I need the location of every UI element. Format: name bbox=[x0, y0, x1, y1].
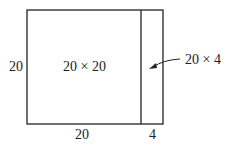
strip-area-label: 20 × 4 bbox=[185, 53, 221, 67]
strip-width-label: 4 bbox=[149, 128, 156, 142]
side-length-label: 20 bbox=[9, 60, 23, 74]
pointer-arrow bbox=[153, 59, 180, 67]
square-area-label: 20 × 20 bbox=[63, 60, 106, 74]
bottom-width-label: 20 bbox=[75, 128, 89, 142]
area-diagram bbox=[0, 0, 226, 149]
arrowhead-icon bbox=[149, 63, 157, 69]
